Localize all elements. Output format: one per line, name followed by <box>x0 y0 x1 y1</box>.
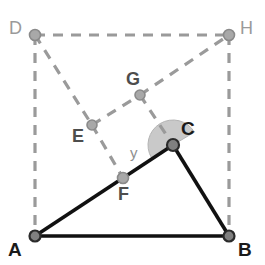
geometry-canvas <box>0 0 265 265</box>
segment-cb <box>173 145 229 236</box>
vertex-label-c: C <box>181 119 195 138</box>
vertex-label-a: A <box>8 240 22 259</box>
vertex-label-d: D <box>9 19 22 37</box>
segment-de <box>35 35 92 125</box>
vertex-node-h[interactable] <box>224 30 235 41</box>
vertex-node-c[interactable] <box>167 139 179 151</box>
vertex-label-g: G <box>126 70 140 88</box>
segment-ac <box>35 145 173 236</box>
segment-eg <box>92 95 140 125</box>
vertex-label-e: E <box>72 127 84 145</box>
vertex-node-b[interactable] <box>224 231 235 242</box>
segment-ef <box>92 125 123 178</box>
vertex-label-h: H <box>240 19 253 37</box>
dashed-edges-layer <box>35 35 229 236</box>
vertex-node-e[interactable] <box>87 120 97 130</box>
vertex-node-d[interactable] <box>30 30 41 41</box>
vertex-node-f[interactable] <box>118 173 129 184</box>
vertex-label-f: F <box>118 185 129 203</box>
geometry-figure: ABCDHEFGy <box>0 0 265 265</box>
segment-gh <box>140 35 229 95</box>
angle-label-y: y <box>130 145 138 160</box>
vertex-node-a[interactable] <box>30 231 41 242</box>
vertex-label-b: B <box>238 240 252 259</box>
vertex-nodes-layer <box>30 30 235 242</box>
vertex-node-g[interactable] <box>135 90 145 100</box>
